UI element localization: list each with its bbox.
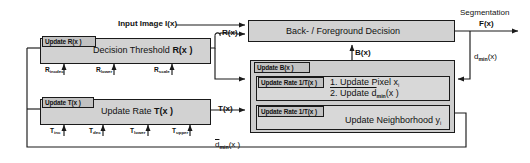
decision-threshold-title-pre: Decision Threshold [93, 45, 172, 55]
wire-rx-to-updateb [215, 48, 245, 79]
tick-label-t-upper: Tupper [172, 127, 188, 134]
label-tx: T(x) [218, 104, 233, 113]
update-neighborhood-text: Update Neighborhood y [345, 115, 440, 125]
label-bx: B(x) [355, 48, 371, 57]
label-rx: R(x) [222, 28, 238, 37]
label-dmin-x: dmin(x) [474, 52, 497, 61]
update-pixel-line-2: 2. Update dmin(x ) [330, 88, 399, 98]
tick-r-lower-sub: lower [101, 69, 112, 74]
decision-threshold-title-bold: R(x ) [172, 45, 192, 55]
tag-update-tx[interactable]: Update T(x ) [42, 97, 94, 108]
label-segmentation-line1: Segmentation [460, 8, 509, 17]
tick-t-inc-sub: inc [54, 130, 60, 135]
label-dbarmin-sub: min [219, 144, 228, 150]
label-segmentation-line2: F(x) [479, 19, 494, 28]
update-neighborhood-line: Update Neighborhood yi [345, 115, 441, 125]
tick-label-t-dec: Tdec [89, 127, 101, 134]
tick-r-incdec-sub: incdec [50, 69, 64, 74]
tick-label-r-incdec: Rincdec [45, 66, 64, 73]
tick-t-lower-sub: lower [134, 130, 145, 135]
label-dbarmin-arg: (x ) [229, 140, 241, 149]
tag-update-rx[interactable]: Update R(x ) [42, 36, 96, 47]
update-rate-title: Update Rate T(x ) [101, 106, 173, 116]
tag-update-bx[interactable]: Update B(x ) [254, 62, 310, 73]
tick-label-t-inc: Tinc [50, 127, 60, 134]
update-pixel-line-2-text: 2. Update d [330, 88, 377, 98]
decision-threshold-title: Decision Threshold R(x ) [93, 45, 192, 55]
diagram-canvas: Back- / Foreground Decision Update R(x )… [0, 0, 530, 163]
foreground-decision-title: Back- / Foreground Decision [286, 26, 400, 36]
label-dmin-arg: (x) [488, 52, 497, 61]
wire-rx-riser [211, 36, 215, 49]
label-dbarmin-x: dmin(x ) [215, 140, 240, 149]
tick-label-r-scale: Rscale [154, 66, 170, 73]
update-pixel-line-2-sub: min [377, 93, 386, 99]
label-input-image: Input Image I(x) [118, 19, 177, 28]
wire-rx-hop [215, 33, 220, 36]
tick-label-r-lower: Rlower [96, 66, 112, 73]
tick-r-scale-sub: scale [159, 69, 170, 74]
update-pixel-line-1: 1. Update Pixel xi [330, 77, 399, 87]
tag-update-rate-1-over-t-a[interactable]: Update Rate 1/T(x ) [258, 77, 324, 88]
wire-dmin-feedback [458, 31, 470, 79]
update-pixel-line-1-sub: i [398, 82, 399, 88]
update-pixel-line-1-text: 1. Update Pixel x [330, 77, 398, 87]
tick-label-t-lower: Tlower [130, 127, 146, 134]
update-rate-title-bold: T(x ) [154, 106, 173, 116]
tag-update-rate-1-over-t-b[interactable]: Update Rate 1/T(x ) [258, 106, 324, 117]
tick-t-upper-sub: upper [176, 130, 188, 135]
update-pixel-line-2-arg: (x ) [386, 88, 399, 98]
update-neighborhood-sub: i [440, 120, 441, 126]
tick-t-dec-sub: dec [93, 130, 101, 135]
update-rate-title-pre: Update Rate [101, 106, 154, 116]
label-dmin-sub: min [478, 56, 487, 62]
